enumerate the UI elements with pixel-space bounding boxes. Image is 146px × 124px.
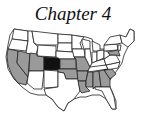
state-iowa	[72, 49, 85, 57]
state-montana	[32, 31, 58, 45]
us-map	[0, 25, 146, 124]
state-kansas	[60, 59, 76, 69]
state-north-dakota	[58, 34, 72, 43]
state-south-dakota	[57, 43, 72, 52]
state-michigan	[92, 41, 100, 51]
state-florida	[95, 87, 116, 109]
state-new-mexico	[44, 70, 58, 88]
state-colorado	[44, 57, 60, 70]
chapter-title: Chapter 4	[0, 4, 146, 24]
state-new-jersey	[118, 45, 121, 51]
state-wisconsin	[82, 39, 90, 49]
state-nebraska	[56, 51, 75, 59]
state-wyoming	[37, 45, 56, 57]
state-new-york	[104, 35, 122, 45]
